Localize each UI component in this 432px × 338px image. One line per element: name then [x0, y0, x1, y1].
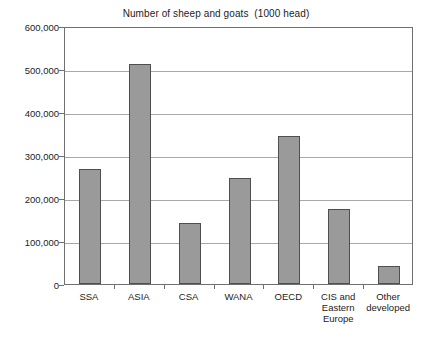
y-axis-tick-mark — [59, 285, 64, 286]
chart-screenshot: Number of sheep and goats (1000 head) 60… — [0, 0, 432, 338]
x-axis-tick-mark — [164, 285, 165, 289]
y-axis-tick-label: 200,000 — [1, 194, 59, 205]
bar — [79, 169, 101, 284]
y-axis-tick-label: 0 — [1, 280, 59, 291]
gridline — [65, 71, 412, 72]
y-axis-tick-mark — [59, 70, 64, 71]
x-axis-tick-label: CIS and Eastern Europe — [321, 291, 355, 324]
bar — [129, 64, 151, 284]
x-axis-tick-label: Other developed — [366, 291, 410, 313]
y-axis-tick-label: 100,000 — [1, 237, 59, 248]
x-axis-tick-mark — [313, 285, 314, 289]
x-axis-tick-mark — [363, 285, 364, 289]
y-axis-tick-mark — [59, 199, 64, 200]
gridline — [65, 157, 412, 158]
x-axis-tick-label: SSA — [79, 291, 98, 302]
y-axis-tick-mark — [59, 242, 64, 243]
chart-title: Number of sheep and goats (1000 head) — [0, 8, 432, 19]
bar — [278, 136, 300, 284]
bar — [179, 223, 201, 284]
x-axis-tick-label: WANA — [224, 291, 252, 302]
y-axis-tick-mark — [59, 156, 64, 157]
bar — [378, 266, 400, 284]
gridline — [65, 114, 412, 115]
x-axis-tick-label: OECD — [275, 291, 302, 302]
y-axis-tick-mark — [59, 113, 64, 114]
x-axis-tick-label: ASIA — [128, 291, 150, 302]
y-axis-tick-label: 500,000 — [1, 65, 59, 76]
y-axis-tick-label: 400,000 — [1, 108, 59, 119]
x-axis-tick-label: CSA — [179, 291, 199, 302]
y-axis-tick-label: 600,000 — [1, 22, 59, 33]
plot-area — [64, 27, 413, 285]
x-axis-tick-mark — [214, 285, 215, 289]
y-axis-tick-label: 300,000 — [1, 151, 59, 162]
bar — [229, 178, 251, 284]
bar — [328, 209, 350, 284]
y-axis-tick-mark — [59, 27, 64, 28]
x-axis-tick-mark — [263, 285, 264, 289]
x-axis-tick-mark — [114, 285, 115, 289]
